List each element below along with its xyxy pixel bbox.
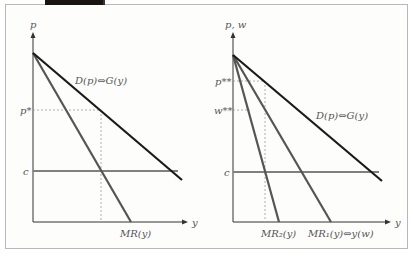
y-axis-label: p — [30, 19, 37, 30]
demand-curve — [33, 53, 182, 180]
header-bar — [45, 0, 105, 5]
y-axis-arrow-icon — [31, 32, 36, 38]
y-axis-label: p, w — [225, 19, 247, 30]
economics-diagram: p y D(p)⇔G(y) MR(y) p* c p, w y D(p)⇔G(y… — [0, 0, 413, 256]
cost-label: c — [23, 166, 29, 177]
x-axis-arrow-icon — [182, 220, 188, 225]
mr1-label: MR₁(y)⇔y(w) — [307, 228, 374, 239]
left-panel: p y D(p)⇔G(y) MR(y) p* c — [20, 19, 198, 239]
demand-label: D(p)⇔G(y) — [74, 75, 127, 86]
mr-label: MR(y) — [119, 228, 151, 239]
y-axis-arrow-icon — [231, 32, 236, 38]
cost-label: c — [224, 167, 230, 178]
mr2-label: MR₂(y) — [260, 228, 296, 239]
price-label: p** — [215, 76, 231, 87]
right-panel: p, w y D(p)⇔G(y) MR₂(y) MR₁(y)⇔y(w) p** … — [214, 19, 401, 239]
mr1-curve — [233, 55, 331, 222]
x-axis-label: y — [394, 217, 401, 228]
wage-label: w** — [214, 105, 233, 116]
demand-label: D(p)⇔G(y) — [315, 110, 368, 121]
mr2-curve — [233, 55, 279, 222]
x-axis-arrow-icon — [385, 220, 391, 225]
price-label: p* — [20, 105, 31, 116]
x-axis-label: y — [191, 217, 198, 228]
